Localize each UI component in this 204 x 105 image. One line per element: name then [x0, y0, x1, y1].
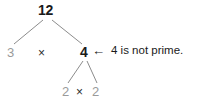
- branch-12-to-4: [52, 20, 82, 44]
- multiply-operator-top: ×: [38, 47, 45, 59]
- node-factor-4: 4: [80, 45, 88, 59]
- node-leaf-2-left: 2: [62, 85, 69, 98]
- factor-tree-diagram: 12 3 × 4 ← 4 is not prime. 2 × 2: [0, 0, 204, 105]
- annotation-text: 4 is not prime.: [111, 45, 183, 57]
- node-factor-3: 3: [7, 46, 14, 59]
- node-leaf-2-right: 2: [92, 85, 99, 98]
- branch-4-to-2-right: [87, 61, 97, 83]
- multiply-operator-bottom: ×: [76, 86, 83, 98]
- branch-12-to-3: [14, 20, 43, 44]
- node-root-12: 12: [38, 3, 53, 17]
- left-arrow-icon: ←: [92, 44, 105, 57]
- branch-4-to-2-left: [68, 61, 83, 83]
